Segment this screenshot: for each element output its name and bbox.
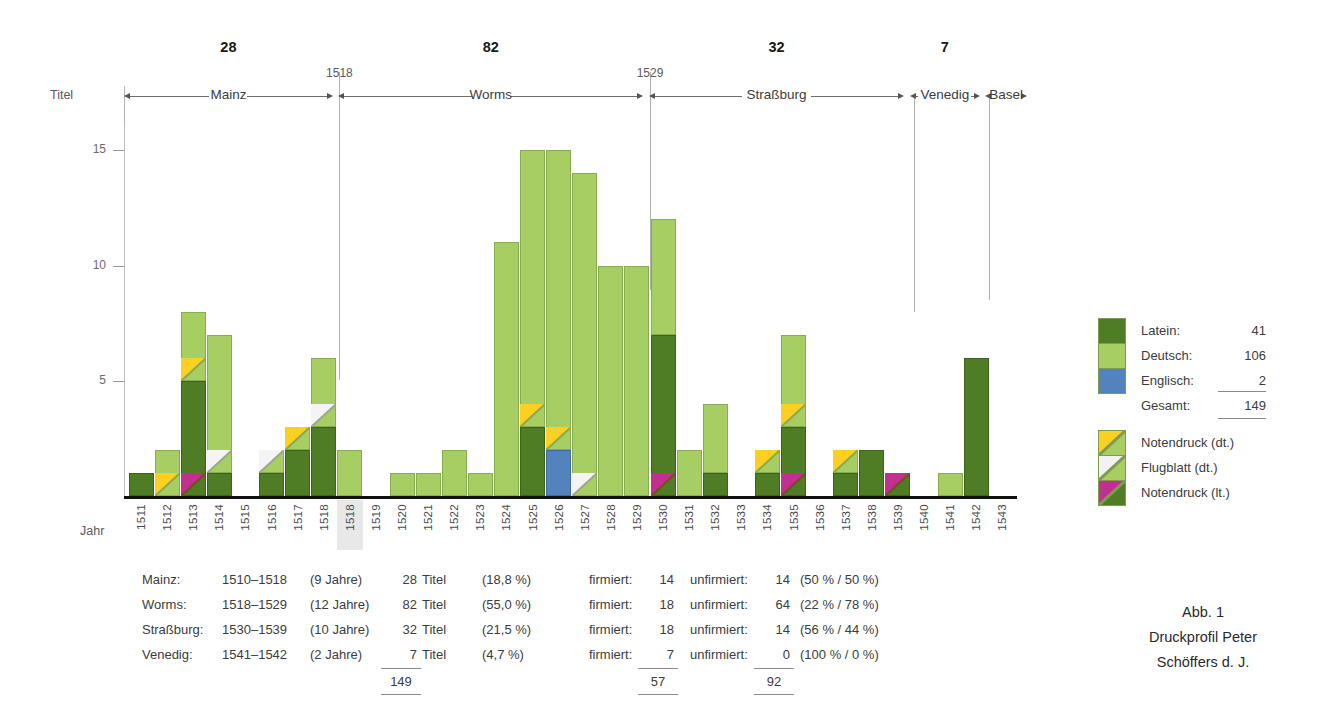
bar-segment-deutsch [598, 266, 623, 497]
table-city-2: Straßburg: [142, 622, 203, 637]
overlay-mark [781, 404, 806, 427]
table-rule-titles-bottom [381, 694, 421, 695]
bar-segment-deutsch [546, 150, 571, 450]
bar-1512-1[interactable] [155, 450, 180, 496]
bar-1511-0[interactable] [129, 473, 154, 496]
bar-1539-29[interactable] [885, 473, 910, 496]
bar-segment-latein [129, 473, 154, 496]
table-rule-unsigned-bottom [754, 694, 794, 695]
period-count-venedig: 7 [941, 39, 949, 55]
table-unsigned-0: 14 [762, 572, 790, 587]
bar-segment-deutsch [572, 173, 597, 496]
period-arrow-right [327, 93, 333, 99]
bar-1518-7[interactable] [311, 358, 336, 496]
bar-segment-latein [285, 450, 310, 496]
table-titles-unit-2: Titel [422, 622, 446, 637]
bar-segment-latein [755, 473, 780, 496]
period-arrow-left [124, 93, 130, 99]
table-rule-signed [638, 668, 678, 669]
table-ratio-2: (56 % / 44 %) [800, 622, 879, 637]
bar-1514-3[interactable] [207, 335, 232, 496]
table-span-2: 1530–1539 [222, 622, 287, 637]
table-share-1: (55,0 %) [482, 597, 531, 612]
legend-value-latein: 41 [1220, 323, 1266, 338]
bar-1542-32[interactable] [964, 358, 989, 496]
bar-1525-15[interactable] [520, 150, 545, 496]
legend-swatch-notendruck-2 [1098, 480, 1126, 506]
bar-1527-17[interactable] [572, 173, 597, 496]
bar-1523-13[interactable] [468, 473, 493, 496]
legend-label-mark-0: Notendruck (dt.) [1141, 435, 1234, 450]
bar-1521-11[interactable] [416, 473, 441, 496]
bar-1531-21[interactable] [677, 450, 702, 496]
bar-1517-6[interactable] [285, 427, 310, 496]
bar-segment-latein [833, 473, 858, 496]
bar-1516-5[interactable] [259, 450, 284, 496]
table-titles-unit-1: Titel [422, 597, 446, 612]
bar-1541-31[interactable] [938, 473, 963, 496]
bar-segment-latein [259, 473, 284, 496]
bar-1520-10[interactable] [390, 473, 415, 496]
bar-segment-deutsch [624, 266, 649, 497]
bar-1518-8[interactable] [337, 450, 362, 496]
legend-swatch-flugblatt-1 [1098, 455, 1126, 481]
table-signed-label-3: firmiert: [589, 647, 632, 662]
x-axis-tick-label-12: 1522 [448, 504, 460, 531]
period-bracket-line-left [916, 96, 919, 97]
period-bracket-line-right [247, 96, 326, 97]
period-arrow-right [898, 93, 904, 99]
x-axis-tick-label-11: 1521 [422, 504, 434, 531]
table-total-signed: 57 [638, 674, 678, 689]
bar-1532-22[interactable] [703, 404, 728, 496]
table-share-0: (18,8 %) [482, 572, 531, 587]
table-span-0: 1510–1518 [222, 572, 287, 587]
overlay-mark [520, 404, 545, 427]
bar-1526-16[interactable] [546, 150, 571, 496]
table-signed-label-1: firmiert: [589, 597, 632, 612]
x-axis-tick-label-33: 1543 [996, 504, 1008, 531]
overlay-mark [181, 473, 206, 496]
bar-1528-18[interactable] [598, 266, 623, 497]
bar-segment-latein [964, 358, 989, 496]
bar-1534-24[interactable] [755, 450, 780, 496]
bar-1535-25[interactable] [781, 335, 806, 496]
table-unsigned-label-1: unfirmiert: [690, 597, 748, 612]
table-city-0: Mainz: [142, 572, 180, 587]
x-axis-tick-label-9: 1519 [370, 504, 382, 531]
x-axis-tick-label-16: 1526 [553, 504, 565, 531]
table-city-1: Worms: [142, 597, 187, 612]
bar-1538-28[interactable] [859, 450, 884, 496]
x-axis-tick-label-31: 1541 [944, 504, 956, 531]
y-axis-tick [113, 150, 124, 151]
table-ratio-1: (22 % / 78 %) [800, 597, 879, 612]
x-axis-tick-label-19: 1529 [631, 504, 643, 531]
period-arrow-left [338, 93, 344, 99]
table-titles-0: 28 [389, 572, 417, 587]
legend-swatch-deutsch [1098, 343, 1126, 369]
bar-segment-deutsch [337, 450, 362, 496]
x-axis-tick-label-32: 1542 [970, 504, 982, 531]
x-axis-tick-label-22: 1532 [709, 504, 721, 531]
overlay-mark [207, 450, 232, 473]
legend-value-englisch: 2 [1220, 373, 1266, 388]
bar-1522-12[interactable] [442, 450, 467, 496]
bar-1530-20[interactable] [651, 219, 676, 496]
period-separator-line [339, 72, 340, 380]
overlay-mark [885, 473, 910, 496]
x-axis-tick-label-3: 1514 [213, 504, 225, 531]
bar-1529-19[interactable] [624, 266, 649, 497]
bar-1513-2[interactable] [181, 312, 206, 496]
period-count-worms: 82 [483, 39, 499, 55]
x-axis-tick-label-15: 1525 [527, 504, 539, 531]
table-unsigned-label-3: unfirmiert: [690, 647, 748, 662]
x-axis-tick-label-27: 1537 [840, 504, 852, 531]
period-arrow-left [910, 93, 916, 99]
legend-label-mark-2: Notendruck (lt.) [1141, 485, 1230, 500]
overlay-mark [155, 473, 180, 496]
bar-1537-27[interactable] [833, 450, 858, 496]
caption-line-2: Druckprofil Peter [1093, 625, 1313, 650]
bar-1524-14[interactable] [494, 242, 519, 496]
table-rule-unsigned [754, 668, 794, 669]
table-signed-0: 14 [646, 572, 674, 587]
y-axis-tick-label: 10 [84, 258, 106, 272]
